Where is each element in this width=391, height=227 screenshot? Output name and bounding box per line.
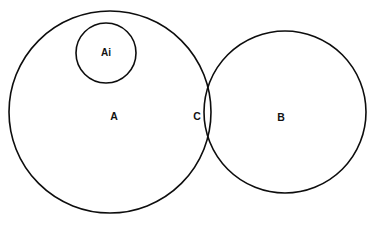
set-label-a: A: [110, 110, 118, 122]
venn-diagram-canvas: Ai A C B: [0, 0, 391, 227]
set-label-ai: Ai: [101, 47, 111, 58]
venn-diagram-svg: Ai A C B: [0, 0, 391, 227]
set-label-b: B: [277, 111, 285, 123]
region-label-c: C: [193, 110, 201, 122]
